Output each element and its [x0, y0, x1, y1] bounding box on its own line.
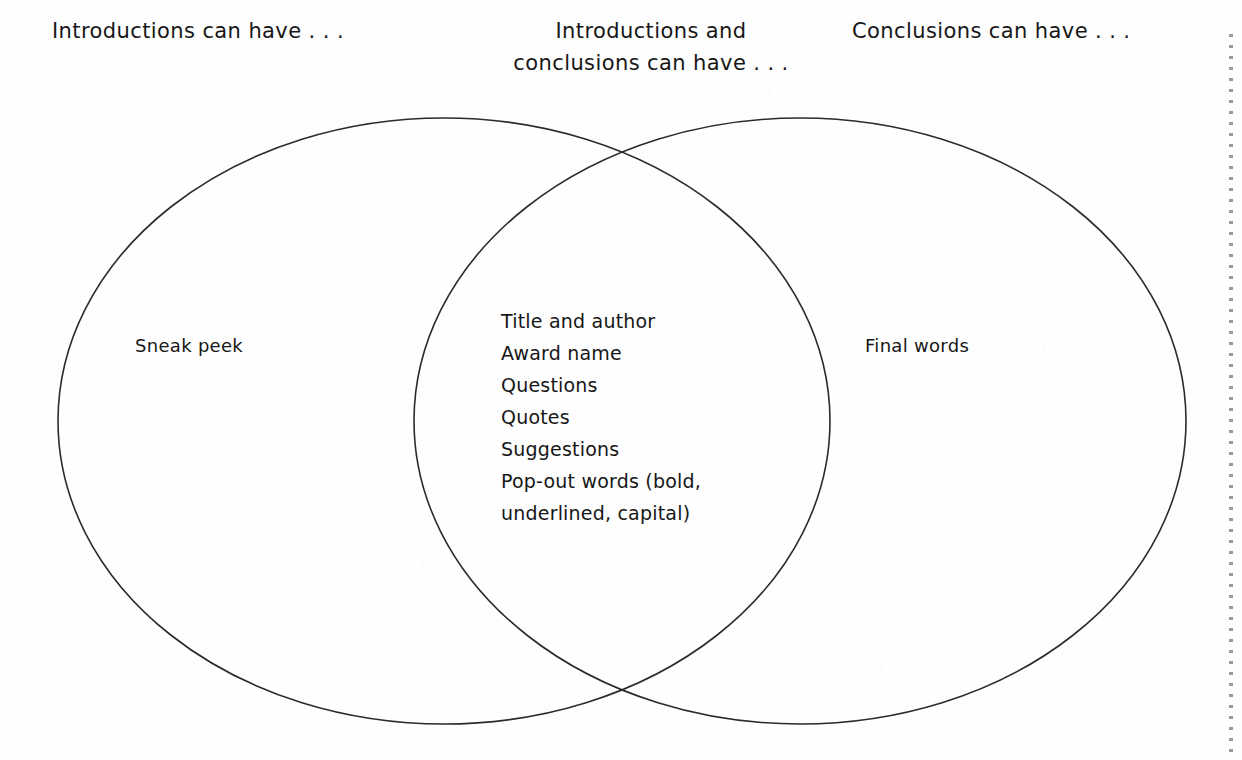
- list-item: Award name: [501, 337, 751, 369]
- list-item: Title and author: [501, 305, 751, 337]
- tear-off-dotted-line: [1229, 34, 1233, 760]
- worksheet-page: Introductions can have . . . Introductio…: [0, 0, 1242, 760]
- list-item: Pop-out words (bold,: [501, 465, 751, 497]
- list-item: underlined, capital): [501, 497, 751, 529]
- right-circle-label: Final words: [865, 335, 969, 356]
- list-item: Quotes: [501, 401, 751, 433]
- left-circle-label: Sneak peek: [135, 335, 243, 356]
- list-item: Questions: [501, 369, 751, 401]
- list-item: Suggestions: [501, 433, 751, 465]
- intersection-list: Title and author Award name Questions Qu…: [501, 305, 751, 529]
